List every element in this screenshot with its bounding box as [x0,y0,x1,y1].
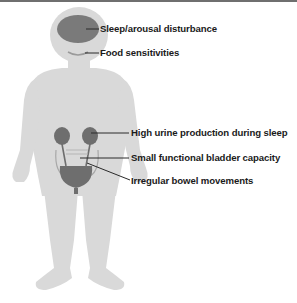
label-irregular-bowel: Irregular bowel movements [131,175,253,186]
label-small-bladder-capacity: Small functional bladder capacity [131,152,280,163]
label-sleep-arousal: Sleep/arousal disturbance [100,23,217,34]
label-food-sensitivities: Food sensitivities [100,47,179,58]
label-high-urine-production: High urine production during sleep [131,127,288,138]
kidney-right-icon [82,127,98,145]
kidney-left-icon [54,127,70,145]
